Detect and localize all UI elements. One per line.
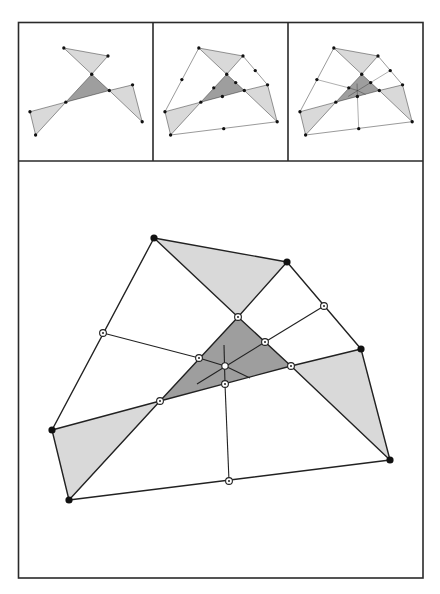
center-point — [222, 363, 228, 369]
vertex-a — [150, 234, 157, 241]
midpoint-inner-left — [196, 355, 203, 362]
geometry-figure — [0, 0, 440, 594]
midpoint-inner-right — [262, 339, 269, 346]
midpoint-inner-bottom — [222, 381, 229, 388]
vertex-c — [357, 345, 364, 352]
vertex-e — [65, 496, 72, 503]
panel-step-2 — [163, 46, 279, 136]
panel-final — [48, 234, 393, 503]
midpoint-af — [100, 330, 107, 337]
point-p-left — [157, 398, 164, 405]
panel-step-3 — [298, 46, 414, 136]
construction-points — [100, 303, 328, 485]
midpoint-de — [226, 478, 233, 485]
midpoint-bc — [321, 303, 328, 310]
panel-step-1 — [28, 46, 144, 136]
point-p-top — [235, 314, 242, 321]
vertex-d — [386, 456, 393, 463]
vertex-f — [48, 426, 55, 433]
point-p-right — [288, 363, 295, 370]
vertex-b — [283, 258, 290, 265]
midpoint-connectors — [103, 306, 324, 481]
